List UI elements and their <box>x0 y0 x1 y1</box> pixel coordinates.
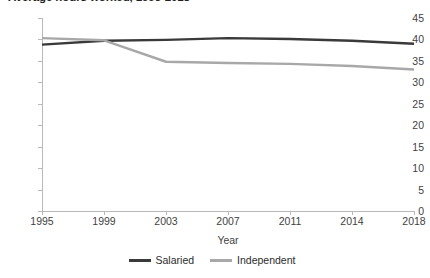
legend-label: Independent <box>237 255 295 266</box>
series-line-independent <box>42 38 414 69</box>
legend-line-swatch <box>210 259 232 262</box>
legend-entry-salaried[interactable]: Salaried <box>129 255 195 266</box>
legend-label: Salaried <box>156 255 195 266</box>
legend-line-swatch <box>129 259 151 262</box>
legend-entry-independent[interactable]: Independent <box>210 255 295 266</box>
chart-legend: SalariedIndependent <box>0 255 424 266</box>
